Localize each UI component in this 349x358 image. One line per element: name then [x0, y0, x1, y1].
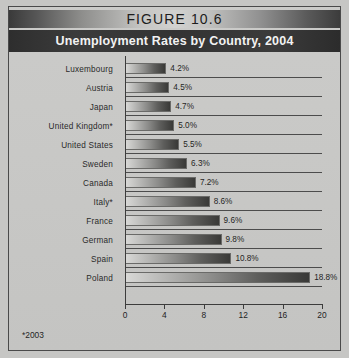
bar-row: United States5.5% [9, 136, 340, 155]
bar-category-label: Poland [9, 269, 119, 288]
gridline [125, 115, 322, 116]
x-axis-tick-label: 0 [123, 310, 128, 320]
bar [125, 139, 179, 150]
gridline [125, 248, 322, 249]
x-axis-tick [283, 304, 284, 309]
bar [125, 63, 166, 74]
bar-row: German9.8% [9, 231, 340, 250]
gridline [125, 267, 322, 268]
bar [125, 101, 171, 112]
x-axis-tick-label: 20 [317, 310, 326, 320]
bar-row: Austria4.5% [9, 79, 340, 98]
figure-number-band: FIGURE 10.6 [9, 10, 340, 28]
gridline [125, 134, 322, 135]
x-axis-tick [204, 304, 205, 309]
y-axis-line [125, 56, 126, 304]
bar-value-label: 10.8% [235, 252, 258, 265]
bar-category-label: Italy* [9, 193, 119, 212]
figure-container: FIGURE 10.6 Unemployment Rates by Countr… [0, 0, 349, 358]
x-axis-tick [322, 304, 323, 309]
bar-category-label: German [9, 231, 119, 250]
gridline [125, 191, 322, 192]
x-axis-line [125, 304, 322, 305]
bar-row: Spain10.8% [9, 250, 340, 269]
bar-category-label: France [9, 212, 119, 231]
gridline [125, 210, 322, 211]
bar [125, 272, 310, 283]
gridline [125, 77, 322, 78]
chart-title: Unemployment Rates by Country, 2004 [55, 34, 293, 48]
bar-value-label: 4.2% [170, 62, 189, 75]
bar-category-label: Spain [9, 250, 119, 269]
x-axis-tick [243, 304, 244, 309]
bar-value-label: 4.5% [173, 81, 192, 94]
bar [125, 120, 174, 131]
bar [125, 234, 222, 245]
gridline [125, 229, 322, 230]
bar [125, 82, 169, 93]
gridline [125, 153, 322, 154]
gridline [125, 286, 322, 287]
bar-category-label: Luxembourg [9, 60, 119, 79]
gridline [125, 96, 322, 97]
footnote: *2003 [22, 330, 44, 340]
bar-value-label: 9.8% [226, 233, 245, 246]
chart-title-band: Unemployment Rates by Country, 2004 [9, 30, 340, 52]
bar-value-label: 5.0% [178, 119, 197, 132]
x-axis-tick [125, 304, 126, 309]
bar-row: Luxembourg4.2% [9, 60, 340, 79]
gridline [125, 172, 322, 173]
bar [125, 215, 220, 226]
bar-value-label: 5.5% [183, 138, 202, 151]
bar-value-label: 6.3% [191, 157, 210, 170]
bar [125, 253, 231, 264]
x-axis-tick [164, 304, 165, 309]
bar-row: Japan4.7% [9, 98, 340, 117]
x-axis-tick-label: 4 [162, 310, 167, 320]
bar [125, 177, 196, 188]
x-axis-tick-label: 16 [278, 310, 287, 320]
bar [125, 158, 187, 169]
x-axis-tick-label: 12 [239, 310, 248, 320]
x-axis-tick-label: 8 [201, 310, 206, 320]
bar-row: Sweden6.3% [9, 155, 340, 174]
figure-number-label: FIGURE 10.6 [126, 11, 222, 27]
bar [125, 196, 210, 207]
bar-value-label: 18.8% [314, 271, 337, 284]
bar-row: France9.6% [9, 212, 340, 231]
bar-category-label: Canada [9, 174, 119, 193]
bar-row: Canada7.2% [9, 174, 340, 193]
bar-row: Poland18.8% [9, 269, 340, 288]
bar-category-label: Japan [9, 98, 119, 117]
bar-value-label: 4.7% [175, 100, 194, 113]
bar-row: Italy*8.6% [9, 193, 340, 212]
bar-value-label: 8.6% [214, 195, 233, 208]
bar-chart-plot: Luxembourg4.2%Austria4.5%Japan4.7%United… [9, 56, 340, 318]
bar-category-label: Sweden [9, 155, 119, 174]
bar-category-label: United States [9, 136, 119, 155]
bar-value-label: 7.2% [200, 176, 219, 189]
bar-value-label: 9.6% [224, 214, 243, 227]
bar-category-label: United Kingdom* [9, 117, 119, 136]
bar-row: United Kingdom*5.0% [9, 117, 340, 136]
bar-category-label: Austria [9, 79, 119, 98]
